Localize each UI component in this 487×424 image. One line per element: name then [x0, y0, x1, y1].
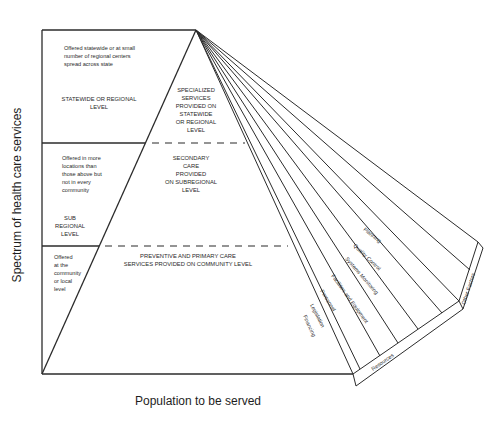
svg-text:community: community	[54, 270, 81, 276]
x-axis-label: Population to be served	[135, 394, 261, 408]
statewide-note: Offered statewide or at small number of …	[64, 45, 135, 67]
subregional-title: SUB REGIONAL LEVEL	[55, 215, 86, 237]
svg-text:Offered statewide or at small: Offered statewide or at small	[64, 45, 135, 51]
svg-text:LEVEL: LEVEL	[187, 127, 206, 133]
label-financing: Financing	[302, 314, 317, 338]
specialized-services-text: SPECIALIZED SERVICES PROVIDED ON STATEWI…	[176, 87, 217, 133]
community-note: Offered at the community or local level	[54, 254, 81, 292]
svg-text:not in every: not in every	[62, 179, 91, 185]
svg-text:PROVIDED ON: PROVIDED ON	[176, 103, 217, 109]
svg-text:SECONDARY: SECONDARY	[173, 155, 210, 161]
svg-text:locations than: locations than	[62, 163, 97, 169]
svg-text:LEVEL: LEVEL	[61, 231, 80, 237]
label-resources-group: Resources	[370, 352, 395, 372]
svg-text:number of regional centers: number of regional centers	[64, 53, 131, 59]
svg-text:SUB: SUB	[64, 215, 76, 221]
svg-text:ON SUBREGIONAL: ON SUBREGIONAL	[165, 179, 218, 185]
fan-lines	[196, 30, 483, 386]
svg-text:at the: at the	[54, 262, 68, 268]
svg-text:SPECIALIZED: SPECIALIZED	[177, 87, 215, 93]
primary-care-text: PREVENTIVE AND PRIMARY CARE SERVICES PRO…	[124, 253, 253, 267]
label-personnel: Personnel	[319, 288, 337, 312]
svg-text:PROVIDED: PROVIDED	[176, 171, 206, 177]
svg-text:LEVEL: LEVEL	[90, 104, 109, 110]
svg-text:Offered: Offered	[54, 254, 73, 260]
svg-text:level: level	[54, 286, 66, 292]
secondary-care-text: SECONDARY CARE PROVIDED ON SUBREGIONAL L…	[165, 155, 218, 193]
svg-text:PREVENTIVE AND PRIMARY CARE: PREVENTIVE AND PRIMARY CARE	[140, 253, 236, 259]
health-care-pyramid-diagram: Spectrum of health care services Populat…	[0, 0, 487, 424]
label-planning: Planning	[362, 226, 382, 244]
svg-text:those above but: those above but	[62, 171, 102, 177]
svg-text:SERVICES PROVIDED ON COMMUNITY: SERVICES PROVIDED ON COMMUNITY LEVEL	[124, 261, 253, 267]
svg-text:LEVEL: LEVEL	[182, 187, 201, 193]
svg-text:Offered in more: Offered in more	[62, 155, 101, 161]
pyramid-left-edge	[42, 30, 196, 374]
svg-text:REGIONAL: REGIONAL	[55, 223, 86, 229]
svg-text:OR REGIONAL: OR REGIONAL	[176, 119, 217, 125]
y-axis-label: Spectrum of health care services	[10, 108, 24, 283]
svg-text:or local: or local	[54, 278, 72, 284]
svg-text:community: community	[62, 187, 89, 193]
svg-text:CARE: CARE	[183, 163, 199, 169]
svg-text:STATEWIDE: STATEWIDE	[180, 111, 213, 117]
statewide-title: STATEWIDE OR REGIONAL LEVEL	[62, 96, 138, 110]
svg-text:SERVICES: SERVICES	[181, 95, 210, 101]
fan-labels: Financing Legislation Personnel Faciliti…	[302, 226, 476, 372]
svg-text:spread across state: spread across state	[64, 61, 113, 67]
subregional-note: Offered in more locations than those abo…	[62, 155, 102, 193]
svg-text:STATEWIDE OR REGIONAL: STATEWIDE OR REGIONAL	[62, 96, 138, 102]
